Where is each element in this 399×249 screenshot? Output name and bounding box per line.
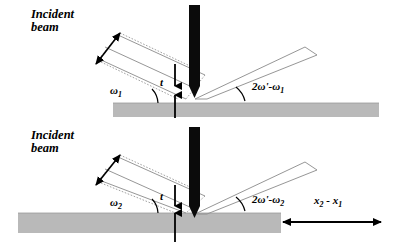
thickness-label-bottom: t	[160, 190, 163, 202]
incidence-angle-label-bottom: ω2	[110, 196, 122, 211]
incidence-angle-sub-bottom: 2	[118, 202, 122, 211]
probe-tip-top	[189, 5, 200, 98]
incidence-angle-symbol-bottom: ω	[110, 196, 118, 208]
probe-tip-bottom	[189, 127, 200, 218]
incidence-angle-label-top: ω1	[110, 84, 122, 99]
incidence-angle-arc-top	[152, 89, 158, 103]
diagram-svg	[0, 0, 399, 249]
incidence-angle-symbol-top: ω	[110, 84, 118, 96]
incident-beam-label-bottom: Incident beam	[31, 129, 74, 155]
exit-angle-label-top: 2ω'-ω1	[252, 80, 284, 95]
thickness-symbol-top: t	[160, 76, 163, 88]
thickness-symbol-bottom: t	[160, 190, 163, 202]
incident-beam-label-top: Incident beam	[31, 8, 74, 34]
beam-width-arrow-top	[96, 33, 120, 64]
thickness-label-top: t	[160, 76, 163, 88]
incident-beam-label-top-line2: beam	[31, 21, 74, 34]
substrate-bar-top	[113, 103, 379, 117]
incident-beam-label-bottom-line2: beam	[31, 142, 74, 155]
exit-angle-sub-top: 1	[280, 86, 284, 95]
incidence-angle-sub-top: 1	[118, 90, 122, 99]
exit-angle-sub-bottom: 2	[280, 199, 284, 208]
offset-x1-sub: 1	[338, 200, 342, 209]
offset-distance-label: x2 - x1	[314, 194, 342, 209]
offset-minus: -	[324, 194, 333, 206]
exit-angle-symbol-bottom: 2ω'-ω	[252, 193, 280, 205]
beam-width-arrow-bottom	[96, 155, 120, 185]
exit-angle-arc-top	[236, 87, 245, 101]
top-panel-graphics	[96, 5, 379, 118]
substrate-bar-bottom	[18, 213, 281, 233]
figure-canvas: Incident beam ω1 t 2ω'-ω1 Incident beam …	[0, 0, 399, 249]
exit-angle-symbol-top: 2ω'-ω	[252, 80, 280, 92]
exit-angle-label-bottom: 2ω'-ω2	[252, 193, 284, 208]
